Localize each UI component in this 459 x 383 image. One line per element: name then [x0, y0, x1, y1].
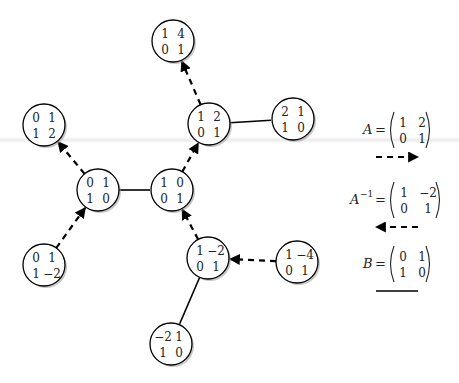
matrix-entry: 1	[197, 110, 205, 124]
legend: =A1201=A−11−201=B0110	[349, 112, 440, 291]
matrix-entry: 1	[161, 27, 169, 41]
node-circle	[272, 98, 314, 140]
matrix-entry: 0	[32, 251, 40, 265]
matrix-entry: 0	[86, 176, 94, 190]
matrix-entry: 0	[32, 111, 40, 125]
legend-superscript: −1	[360, 189, 373, 199]
cayley-graph-diagram: 100112011401211001100112011−21−2011−401−…	[0, 0, 459, 383]
node-circle	[188, 103, 230, 145]
matrix-entry: 0	[285, 264, 293, 278]
legend-label: B	[362, 256, 373, 271]
matrix-entry: 1	[285, 248, 293, 262]
legend-matrix-entry: −2	[419, 186, 437, 200]
legend-item: =B0110	[362, 246, 430, 291]
matrix-entry: 1	[196, 244, 204, 258]
edge-a-dashed-arrow	[182, 209, 198, 239]
matrix-entry: −2	[43, 267, 61, 281]
matrix-entry: 1	[297, 105, 305, 119]
matrix-entry: 1	[160, 176, 168, 190]
legend-item: =A1201	[362, 112, 430, 157]
matrix-entry: 1	[159, 346, 167, 360]
matrix-entry: 1	[301, 264, 309, 278]
edge-b-solid	[180, 277, 200, 324]
node-circle	[152, 20, 194, 62]
matrix-entry: 0	[196, 260, 204, 274]
legend-matrix-entry: 1	[400, 186, 408, 200]
matrix-entry: 1	[102, 176, 110, 190]
matrix-entry: 1	[48, 251, 56, 265]
left-paren	[391, 246, 395, 282]
matrix-node: 011−2	[23, 244, 67, 288]
node-circle	[77, 169, 119, 211]
matrix-entry: 2	[281, 105, 289, 119]
matrix-node: 0110	[77, 169, 121, 213]
matrix-entry: 2	[48, 127, 56, 141]
matrix-entry: 4	[177, 27, 185, 41]
nodes-layer: 100112011401211001100112011−21−2011−401−…	[23, 20, 320, 367]
legend-matrix-entry: 0	[400, 202, 408, 216]
right-paren	[426, 112, 430, 148]
matrix-entry: 1	[86, 192, 94, 206]
matrix-entry: −2	[207, 244, 225, 258]
matrix-entry: 0	[297, 121, 305, 135]
edge-a-dashed-arrow	[230, 259, 276, 261]
matrix-node: 1001	[151, 169, 195, 213]
matrix-entry: 0	[161, 43, 169, 57]
node-circle	[151, 169, 193, 211]
matrix-entry: −4	[296, 248, 314, 262]
legend-item: =A−11−201	[349, 182, 440, 227]
matrix-entry: 1	[175, 330, 183, 344]
legend-matrix-entry: 1	[418, 132, 426, 146]
left-paren	[391, 112, 395, 148]
edge-a-dashed-arrow	[58, 142, 85, 174]
matrix-entry: 0	[102, 192, 110, 206]
matrix-entry: 0	[175, 346, 183, 360]
legend-matrix-entry: 0	[418, 266, 426, 280]
matrix-node: 1201	[188, 103, 232, 147]
legend-equals: =	[375, 122, 386, 137]
edge-a-dashed-arrow	[182, 143, 198, 171]
left-paren	[391, 182, 395, 218]
legend-matrix-entry: 0	[399, 250, 407, 264]
legend-matrix-entry: 0	[399, 132, 407, 146]
matrix-node: 2110	[272, 98, 316, 142]
matrix-entry: 1	[32, 127, 40, 141]
edge-b-solid	[230, 120, 271, 122]
legend-matrix-entry: 1	[424, 202, 432, 216]
matrix-node: 0112	[23, 104, 67, 148]
legend-matrix-entry: 1	[418, 250, 426, 264]
legend-equals: =	[375, 256, 386, 271]
edge-a-dashed-arrow	[182, 61, 201, 105]
matrix-entry: 1	[213, 126, 221, 140]
matrix-node: 1401	[152, 20, 196, 64]
node-circle	[23, 104, 65, 146]
matrix-node: 1−201	[187, 237, 231, 281]
matrix-node: −2110	[150, 323, 194, 367]
matrix-entry: 0	[176, 176, 184, 190]
legend-matrix-entry: 2	[418, 116, 426, 130]
matrix-entry: 1	[177, 43, 185, 57]
matrix-entry: 2	[213, 110, 221, 124]
legend-label: A	[349, 192, 359, 207]
matrix-entry: 1	[212, 260, 220, 274]
edge-a-dashed-arrow	[56, 208, 85, 248]
matrix-entry: 0	[160, 192, 168, 206]
matrix-entry: 0	[197, 126, 205, 140]
matrix-entry: 1	[32, 267, 40, 281]
matrix-entry: 1	[281, 121, 289, 135]
right-paren	[426, 246, 430, 282]
legend-label: A	[362, 122, 372, 137]
matrix-node: 1−401	[276, 241, 320, 285]
legend-matrix-entry: 1	[399, 116, 407, 130]
matrix-entry: 1	[176, 192, 184, 206]
matrix-entry: −2	[154, 330, 172, 344]
legend-equals: =	[375, 192, 386, 207]
legend-matrix-entry: 1	[399, 266, 407, 280]
matrix-entry: 1	[48, 111, 56, 125]
